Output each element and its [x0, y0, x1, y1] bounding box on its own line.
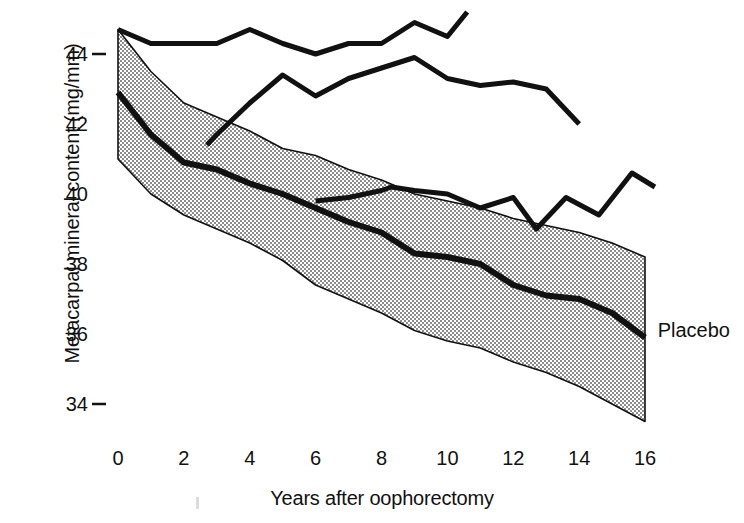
plot-area — [0, 0, 744, 523]
series-treated-b — [207, 58, 579, 146]
chart-figure: Metacarpal mineral content (mg/mm) Years… — [0, 0, 744, 523]
series-treated-a — [118, 12, 467, 54]
axis-lines — [92, 54, 106, 404]
scan-speck — [196, 497, 199, 509]
confidence-band — [118, 30, 645, 422]
placebo-annotation: Placebo — [658, 320, 730, 340]
